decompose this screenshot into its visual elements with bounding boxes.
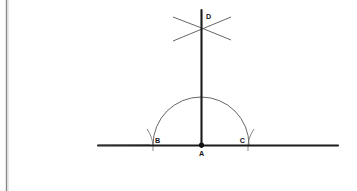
tick-arc-at-b (147, 129, 153, 151)
geometry-diagram-canvas: A B C D (0, 0, 357, 191)
point-label-a: A (199, 149, 204, 158)
vertex-dot-a (199, 142, 204, 147)
construction-figure: A B C D (0, 0, 357, 191)
point-label-d: D (206, 12, 211, 21)
point-label-b: B (155, 136, 160, 145)
point-label-c: C (240, 136, 245, 145)
tick-arc-at-c (248, 129, 254, 151)
